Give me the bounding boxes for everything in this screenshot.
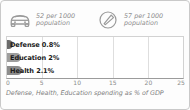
chart-bars: Defense 0.8%Education 2%Health 2.1% (7, 37, 183, 78)
telephone-icon (95, 9, 121, 31)
bar-row[interactable]: Education 2% (7, 52, 183, 63)
country-stats-widget: 52 per 1000 population 57 per 1000 popul… (0, 0, 190, 110)
stat-vehicles-unit: population (36, 20, 75, 27)
stats-row: 52 per 1000 population 57 per 1000 popul… (6, 5, 184, 35)
bar-row[interactable]: Health 2.1% (7, 65, 183, 76)
chart-caption: Defense, Health, Education spending as %… (6, 89, 184, 97)
stat-telephones-text: 57 per 1000 population (124, 13, 163, 28)
bar-chart-plot-area: Defense 0.8%Education 2%Health 2.1% (6, 36, 184, 79)
bar-row[interactable]: Defense 0.8% (7, 39, 183, 50)
x-tick-label: 20 (145, 79, 153, 86)
x-tick-label: 5 (40, 79, 44, 86)
stat-telephones-unit: population (124, 20, 163, 27)
gridline (183, 37, 184, 78)
stat-vehicles: 52 per 1000 population (7, 9, 95, 31)
x-tick-label: 0 (6, 79, 10, 86)
bar-label-defense: Defense 0.8% (10, 41, 60, 49)
chart-x-axis: 0510152025 (6, 79, 184, 89)
stat-telephones: 57 per 1000 population (95, 9, 183, 31)
bar-label-health: Health 2.1% (10, 67, 54, 75)
stat-vehicles-text: 52 per 1000 population (36, 13, 75, 28)
car-icon (7, 9, 33, 31)
bar-label-education: Education 2% (10, 54, 59, 62)
x-tick-label: 25 (177, 79, 185, 86)
x-tick-label: 10 (73, 79, 81, 86)
x-tick-label: 15 (109, 79, 117, 86)
